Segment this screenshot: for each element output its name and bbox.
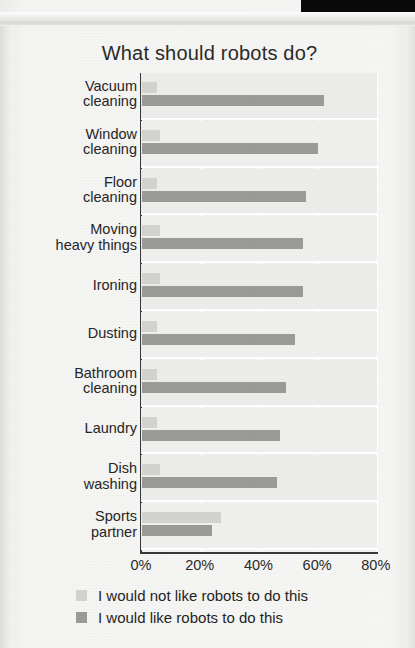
bar-like: [142, 286, 303, 297]
row-separator: [141, 166, 377, 168]
category-label-line: Laundry: [13, 421, 137, 437]
bar-not-like: [142, 464, 160, 475]
category-label: Dusting: [13, 326, 137, 342]
bar-like: [142, 477, 277, 488]
category-label-line: Sports: [13, 509, 137, 525]
row-separator: [141, 500, 377, 502]
category-label: Dishwashing: [13, 461, 137, 492]
bar-not-like: [142, 225, 160, 236]
x-tick-20: 20%: [178, 557, 222, 573]
category-label-line: Ironing: [13, 278, 137, 294]
category-label: Windowcleaning: [13, 127, 137, 158]
legend-item[interactable]: I would not like robots to do this: [76, 584, 406, 606]
category-label-line: cleaning: [13, 94, 137, 110]
bar-like: [142, 143, 318, 154]
bar-like: [142, 334, 295, 345]
category-label-line: Floor: [13, 175, 137, 191]
bar-like: [142, 382, 286, 393]
row-separator: [141, 118, 377, 120]
bar-not-like: [142, 369, 157, 380]
bar-not-like: [142, 130, 160, 141]
row-separator: [141, 309, 377, 311]
category-label: Movingheavy things: [13, 222, 137, 253]
page-left-edge: [0, 26, 14, 648]
row-separator: [141, 548, 377, 550]
category-label-line: Moving: [13, 222, 137, 238]
bar-chart: What should robots do? VacuumcleaningWin…: [14, 26, 405, 648]
x-axis-line: [140, 552, 378, 554]
category-label-line: washing: [13, 477, 137, 493]
x-tick-60: 60%: [295, 557, 339, 573]
bar-like: [142, 525, 212, 536]
category-label-line: cleaning: [13, 190, 137, 206]
category-label-line: Window: [13, 127, 137, 143]
row-separator: [141, 405, 377, 407]
bar-like: [142, 95, 324, 106]
category-label-line: cleaning: [13, 142, 137, 158]
bar-not-like: [142, 512, 221, 523]
legend-item[interactable]: I would like robots to do this: [76, 606, 406, 628]
category-label: Laundry: [13, 421, 137, 437]
category-label: Bathroomcleaning: [13, 366, 137, 397]
top-black-band: [301, 0, 415, 12]
category-label: Floorcleaning: [13, 175, 137, 206]
bar-not-like: [142, 417, 157, 428]
bar-not-like: [142, 321, 157, 332]
category-label-line: heavy things: [13, 238, 137, 254]
x-tick-0: 0%: [119, 557, 163, 573]
category-label-line: Vacuum: [13, 79, 137, 95]
legend-swatch-icon: [76, 590, 87, 601]
category-label-line: cleaning: [13, 381, 137, 397]
row-separator: [141, 452, 377, 454]
bar-not-like: [142, 273, 160, 284]
category-label-line: Bathroom: [13, 366, 137, 382]
category-label: Ironing: [13, 278, 137, 294]
page-background: What should robots do? VacuumcleaningWin…: [0, 0, 415, 648]
x-tick-80: 80%: [354, 557, 398, 573]
row-separator: [141, 261, 377, 263]
legend-swatch-icon: [76, 612, 87, 623]
page-right-edge: [405, 26, 415, 648]
category-label: Sportspartner: [13, 509, 137, 540]
page-top-gutter: [0, 12, 415, 26]
category-label-line: partner: [13, 525, 137, 541]
bar-not-like: [142, 178, 157, 189]
x-tick-40: 40%: [236, 557, 280, 573]
chart-legend: I would not like robots to do thisI woul…: [76, 584, 406, 628]
bar-not-like: [142, 82, 157, 93]
row-separator: [141, 357, 377, 359]
legend-label: I would not like robots to do this: [98, 587, 308, 604]
chart-title: What should robots do?: [14, 42, 405, 65]
bar-like: [142, 430, 280, 441]
row-separator: [141, 213, 377, 215]
legend-label: I would like robots to do this: [98, 609, 283, 626]
bar-like: [142, 191, 306, 202]
category-label-line: Dish: [13, 461, 137, 477]
bar-like: [142, 238, 303, 249]
category-label: Vacuumcleaning: [13, 79, 137, 110]
category-label-line: Dusting: [13, 326, 137, 342]
